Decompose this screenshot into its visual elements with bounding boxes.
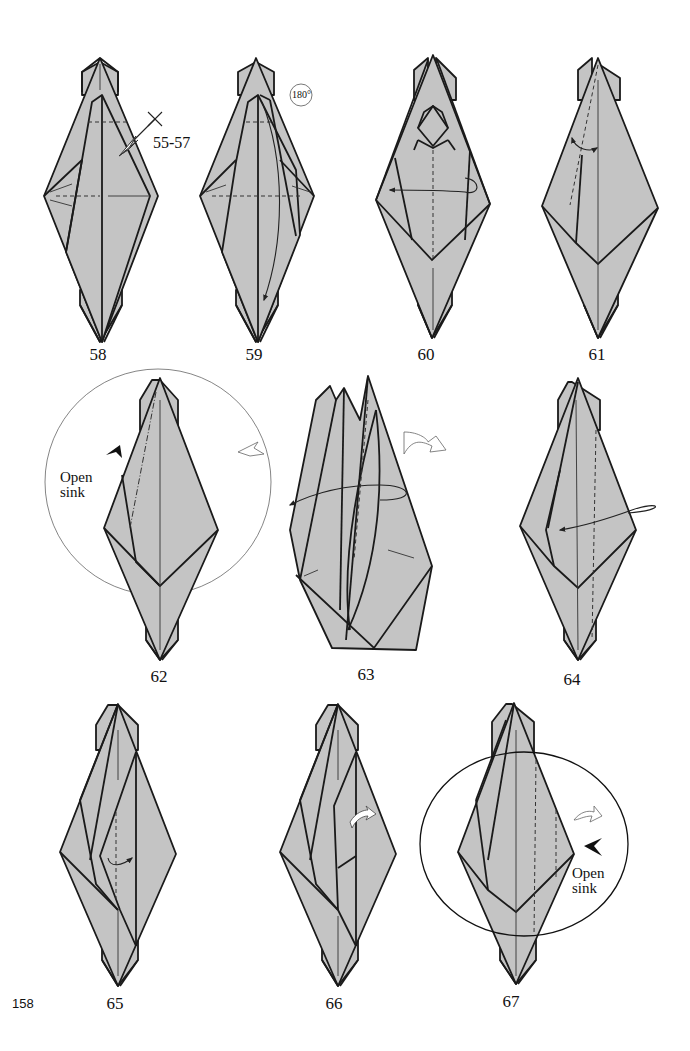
diagram-page: .p { fill:#c4c4c4; stroke:#1a1a1a; strok… <box>0 0 690 1051</box>
step-62-instruction-line1: Open <box>60 470 93 485</box>
step-66-diagram <box>280 704 396 986</box>
step-number-59: 59 <box>246 345 263 365</box>
step-number-66: 66 <box>326 994 343 1014</box>
step-67-instruction-line2: sink <box>572 881 597 896</box>
step-number-61: 61 <box>589 345 606 365</box>
step-number-67: 67 <box>503 992 520 1012</box>
step-number-63: 63 <box>358 665 375 685</box>
step-64-diagram <box>520 378 656 660</box>
step-60-diagram <box>376 55 490 338</box>
step-62-instruction-line2: sink <box>60 485 85 500</box>
step-67-diagram <box>420 703 628 984</box>
step-58-reference: 55-57 <box>153 135 190 150</box>
step-61-diagram <box>542 58 658 338</box>
step-number-64: 64 <box>564 670 581 690</box>
step-63-diagram <box>290 376 446 650</box>
step-number-62: 62 <box>151 667 168 687</box>
step-59-rotate-label: 180° <box>292 89 311 100</box>
step-62-diagram <box>45 369 271 660</box>
step-number-58: 58 <box>90 345 107 365</box>
step-number-60: 60 <box>418 345 435 365</box>
page-number: 158 <box>12 996 34 1011</box>
step-67-instruction-line1: Open <box>572 866 605 881</box>
step-number-65: 65 <box>107 994 124 1014</box>
step-59-diagram <box>200 58 314 342</box>
step-58-diagram <box>44 58 162 342</box>
step-65-diagram <box>60 704 176 986</box>
